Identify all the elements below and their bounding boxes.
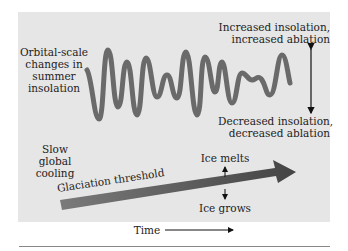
bottom-rule <box>19 246 330 247</box>
ice-grows-label: Ice grows <box>198 202 252 214</box>
label-line: Decreased insolation, <box>218 115 330 127</box>
label-line: global <box>30 155 80 167</box>
insolation-wave <box>87 50 290 119</box>
wave-label-line: changes in <box>18 58 90 70</box>
wave-label-line: summer <box>18 70 90 82</box>
label-line: cooling <box>30 167 80 179</box>
decreased-insolation-label: Decreased insolation, decreased ablation <box>218 115 330 139</box>
label-line: increased ablation <box>218 33 330 45</box>
label-line: Slow <box>30 143 80 155</box>
wave-label: Orbital-scale changes in summer insolati… <box>18 46 90 94</box>
increased-insolation-label: Increased insolation, increased ablation <box>218 21 330 45</box>
time-label: Time <box>132 224 162 236</box>
wave-label-line: insolation <box>18 82 90 94</box>
cooling-label: Slow global cooling <box>30 143 80 179</box>
label-line: Increased insolation, <box>218 21 330 33</box>
ice-melts-label: Ice melts <box>200 152 250 164</box>
label-line: decreased ablation <box>218 127 330 139</box>
wave-label-line: Orbital-scale <box>18 46 90 58</box>
